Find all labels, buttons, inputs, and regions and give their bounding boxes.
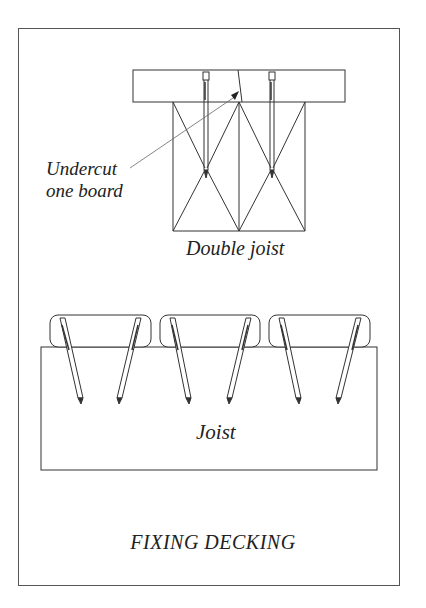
- undercut-line-2: one board: [46, 180, 123, 202]
- undercut-label: Undercut one board: [46, 158, 123, 202]
- figure-title: FIXING DECKING: [0, 531, 426, 554]
- joist: [41, 347, 377, 470]
- leader-line: [130, 96, 236, 168]
- double-joist: [173, 102, 305, 231]
- undercut-line-1: Undercut: [46, 158, 123, 180]
- double-joist-label: Double joist: [186, 237, 284, 260]
- joist-label: Joist: [196, 420, 236, 445]
- decking-diagram: [0, 0, 426, 608]
